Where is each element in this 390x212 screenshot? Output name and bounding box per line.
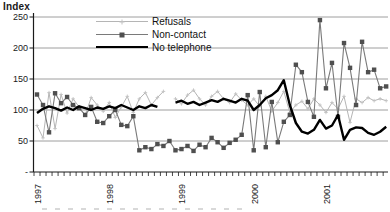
marker-square xyxy=(179,147,183,151)
marker-square xyxy=(161,144,165,148)
marker-square xyxy=(173,148,177,152)
legend-item-non-contact: Non-contact xyxy=(96,28,212,41)
marker-square xyxy=(53,91,57,95)
marker-square xyxy=(276,140,280,144)
marker-square xyxy=(264,145,268,149)
marker-square xyxy=(288,113,292,117)
legend-swatch xyxy=(96,16,148,28)
marker-square xyxy=(294,63,298,67)
marker-square xyxy=(149,147,153,151)
marker-square xyxy=(209,136,213,140)
marker-plus xyxy=(35,124,39,128)
marker-square xyxy=(71,103,75,107)
marker-square xyxy=(330,61,334,65)
x-tick-label-2001: 2001 xyxy=(322,178,332,204)
marker-plus xyxy=(384,99,388,103)
marker-square xyxy=(107,114,111,118)
marker-square xyxy=(258,90,262,94)
marker-square xyxy=(143,145,147,149)
marker-plus xyxy=(47,91,51,95)
x-tick-label-1999: 1999 xyxy=(177,178,187,204)
marker-square xyxy=(95,120,99,124)
legend-swatch xyxy=(96,29,148,41)
marker-square xyxy=(83,113,87,117)
square-marker-icon xyxy=(120,32,125,37)
legend-label: No telephone xyxy=(152,42,212,54)
marker-plus xyxy=(132,111,136,115)
marker-plus xyxy=(65,111,69,115)
legend: RefusalsNon-contactNo telephone xyxy=(96,15,212,54)
marker-square xyxy=(239,133,243,137)
marker-square xyxy=(378,86,382,90)
marker-square xyxy=(101,121,105,125)
marker-square xyxy=(137,148,141,152)
marker-square xyxy=(203,145,207,149)
marker-plus xyxy=(41,136,45,140)
legend-swatch xyxy=(96,42,148,54)
marker-plus xyxy=(372,99,376,103)
marker-square xyxy=(59,101,63,105)
marker-plus xyxy=(348,121,352,125)
marker-plus xyxy=(59,93,63,97)
marker-plus xyxy=(342,95,346,99)
marker-square xyxy=(354,103,358,107)
marker-square xyxy=(191,149,195,153)
x-tick-label-1997: 1997 xyxy=(33,178,43,204)
series-line-non-contact xyxy=(37,20,386,151)
statistics-chart: Index 25020015010050- 199719981999200020… xyxy=(0,0,390,212)
y-tick-label: 200 xyxy=(2,43,28,53)
marker-square xyxy=(215,140,219,144)
legend-item-no-telephone: No telephone xyxy=(96,41,212,54)
marker-square xyxy=(300,70,304,74)
cropped-caption-fragment xyxy=(42,208,242,210)
legend-label: Non-contact xyxy=(152,29,206,41)
marker-square xyxy=(119,123,123,127)
y-tick-label: 50 xyxy=(2,136,28,146)
marker-square xyxy=(227,141,231,145)
marker-square xyxy=(35,92,39,96)
marker-plus xyxy=(53,127,57,131)
marker-square xyxy=(342,41,346,45)
y-tick-label: - xyxy=(2,167,28,177)
marker-square xyxy=(282,120,286,124)
marker-square xyxy=(221,146,225,150)
marker-square xyxy=(366,70,370,74)
marker-square xyxy=(312,115,316,119)
marker-square xyxy=(41,103,45,107)
marker-square xyxy=(65,95,69,99)
marker-square xyxy=(252,148,256,152)
marker-square xyxy=(372,68,376,72)
marker-square xyxy=(246,93,250,97)
marker-square xyxy=(197,143,201,147)
marker-square xyxy=(270,100,274,104)
marker-square xyxy=(167,139,171,143)
plus-marker-icon xyxy=(120,19,125,24)
marker-square xyxy=(360,40,364,44)
marker-square xyxy=(233,138,237,142)
legend-item-refusals: Refusals xyxy=(96,15,212,28)
x-tick-label-2000: 2000 xyxy=(250,178,260,204)
marker-square xyxy=(348,66,352,70)
marker-square xyxy=(384,84,388,88)
marker-square xyxy=(131,114,135,118)
marker-square xyxy=(306,100,310,104)
y-axis-title: Index xyxy=(3,1,30,12)
y-tick-label: 150 xyxy=(2,74,28,84)
legend-label: Refusals xyxy=(152,16,191,28)
marker-square xyxy=(125,124,129,128)
marker-square xyxy=(324,86,328,90)
marker-plus xyxy=(378,97,382,101)
x-tick-label-1998: 1998 xyxy=(105,178,115,204)
marker-square xyxy=(47,130,51,134)
marker-square xyxy=(318,18,322,22)
marker-square xyxy=(155,142,159,146)
marker-square xyxy=(185,144,189,148)
y-tick-label: 100 xyxy=(2,105,28,115)
y-tick-label: 250 xyxy=(2,12,28,22)
